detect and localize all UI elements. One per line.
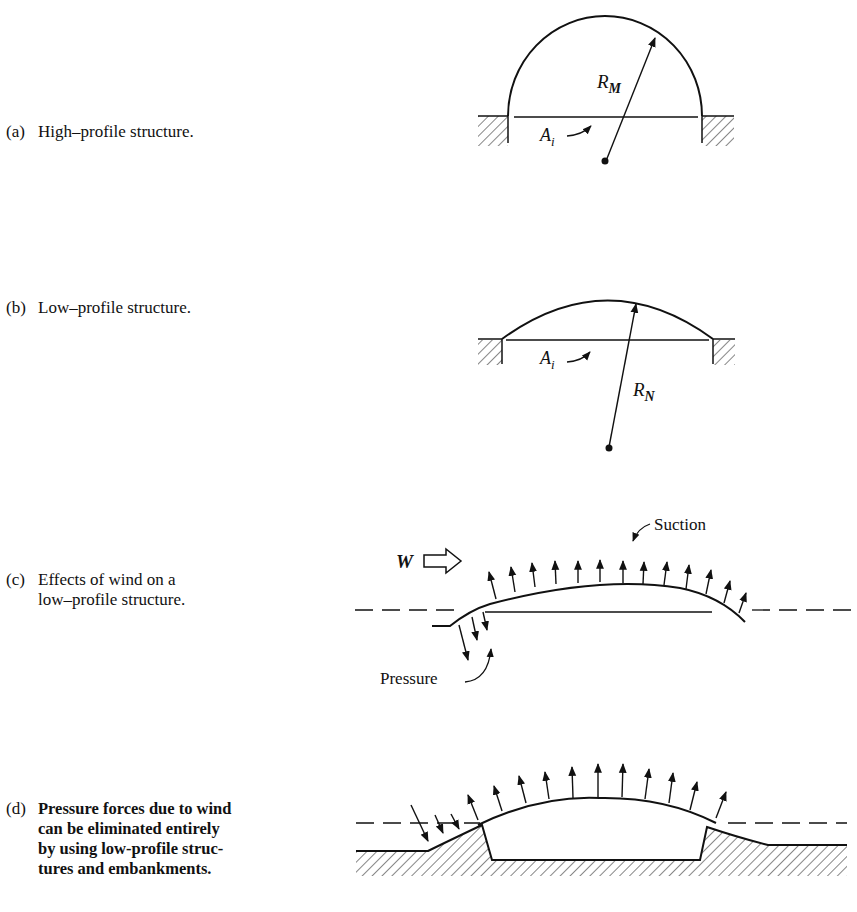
svg-text:W: W — [396, 551, 414, 572]
panel-c-diagram: W Suction Pressure — [355, 515, 857, 688]
svg-text:Suction: Suction — [654, 515, 706, 534]
suction-arrows — [489, 560, 746, 613]
svg-text:RM: RM — [596, 71, 622, 96]
panel-a-diagram: RM Ai — [478, 16, 734, 164]
pressure-arrows — [459, 612, 487, 660]
wind-arrow-icon — [424, 549, 461, 573]
svg-text:Ai: Ai — [539, 125, 555, 149]
svg-text:Pressure: Pressure — [380, 669, 438, 688]
panel-b-diagram: RN Ai — [478, 301, 735, 452]
svg-text:RN: RN — [632, 379, 656, 404]
panel-d-diagram — [356, 764, 847, 876]
figure-drawing: RM Ai RN Ai W — [0, 0, 857, 912]
svg-text:Ai: Ai — [539, 348, 555, 372]
